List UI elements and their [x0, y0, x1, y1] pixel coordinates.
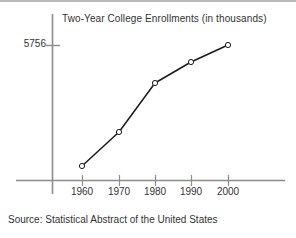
data-point-marker — [188, 59, 193, 64]
x-axis-label-1970: 1970 — [101, 186, 137, 197]
x-axis-label-1980: 1980 — [137, 186, 173, 197]
source-note: Source: Statistical Abstract of the Unit… — [8, 214, 218, 225]
plot-area — [0, 0, 296, 238]
chart-screenshot: Two-Year College Enrollments (in thousan… — [0, 0, 296, 238]
data-line — [82, 45, 228, 166]
data-point-marker — [225, 42, 230, 47]
x-axis-label-2000: 2000 — [210, 186, 246, 197]
data-point-marker — [152, 80, 157, 85]
x-axis-label-1990: 1990 — [173, 186, 209, 197]
x-axis-label-1960: 1960 — [64, 186, 100, 197]
data-point-marker — [79, 163, 84, 168]
data-point-marker — [116, 129, 121, 134]
line-chart-figure: Two-Year College Enrollments (in thousan… — [0, 0, 296, 238]
y-axis-tick-label: 5756 — [14, 38, 46, 49]
